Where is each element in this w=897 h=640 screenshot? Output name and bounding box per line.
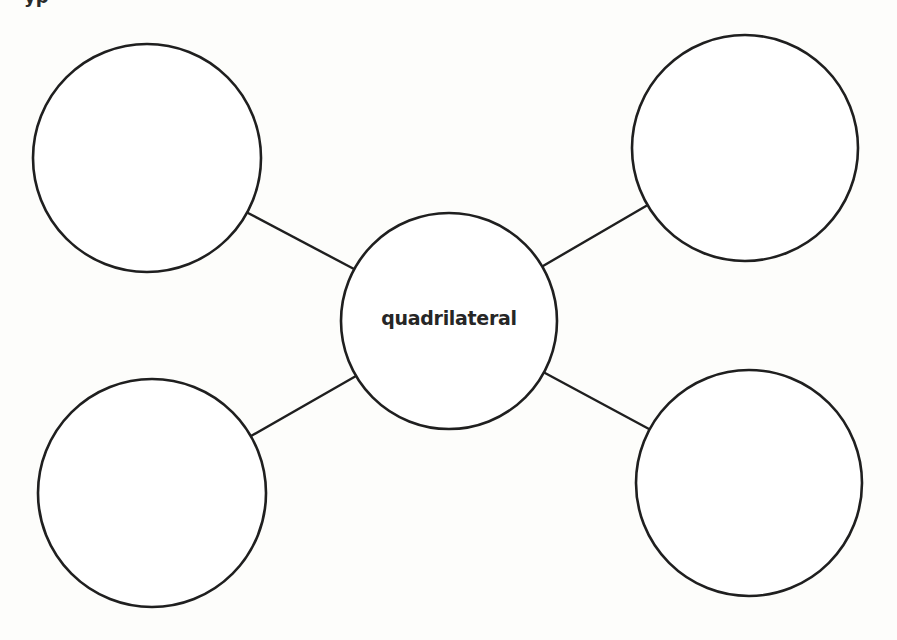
connector-top-right [543, 206, 646, 266]
concept-map-canvas: yp quadrilateral [0, 0, 897, 640]
empty-node-bottom-left [38, 379, 266, 607]
connector-bottom-left [251, 376, 356, 436]
connector-bottom-right [545, 373, 649, 429]
center-node-label: quadrilateral [341, 300, 557, 336]
empty-node-top-right [632, 35, 858, 261]
empty-node-top-left [33, 44, 261, 272]
connector-top-left [248, 213, 354, 269]
empty-node-bottom-right [636, 370, 862, 596]
